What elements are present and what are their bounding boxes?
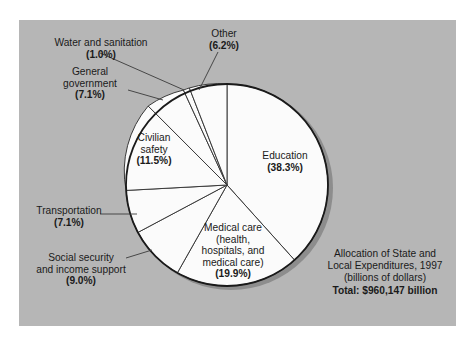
slice-label-general-government-line2: government xyxy=(63,78,117,89)
slice-label-civilian-safety-line2: safety xyxy=(140,144,167,155)
slice-label-other-pct: (6.2%) xyxy=(209,40,239,51)
pie-chart-figure: Water and sanitation (1.0%) Other (6.2%)… xyxy=(0,0,469,341)
slice-label-transportation: Transportation (7.1%) xyxy=(14,205,124,228)
slice-label-medical-care-line3: hospitals, and xyxy=(202,245,265,256)
slice-label-medical-care-line4: medical care) xyxy=(202,257,263,268)
slice-label-water-sanitation-name: Water and sanitation xyxy=(54,37,147,48)
slice-label-other: Other (6.2%) xyxy=(192,28,256,51)
slice-label-general-government-line1: General xyxy=(72,66,108,77)
slice-label-medical-care: Medical care (health, hospitals, and med… xyxy=(178,222,288,280)
chart-caption: Allocation of State and Local Expenditur… xyxy=(318,248,452,297)
slice-label-education: Education (38.3%) xyxy=(243,150,327,173)
slice-label-transportation-name: Transportation xyxy=(36,205,101,216)
caption-line-1: Allocation of State and xyxy=(334,248,436,259)
caption-line-2: Local Expenditures, 1997 xyxy=(328,260,443,271)
slice-label-general-government: General government (7.1%) xyxy=(42,66,138,101)
slice-label-civilian-safety: Civilian safety (11.5%) xyxy=(118,132,190,167)
slice-label-general-government-pct: (7.1%) xyxy=(75,89,105,100)
caption-total: Total: $960,147 billion xyxy=(332,285,437,296)
slice-label-civilian-safety-pct: (11.5%) xyxy=(136,155,171,166)
slice-label-water-sanitation: Water and sanitation (1.0%) xyxy=(36,37,166,60)
slice-label-medical-care-pct: (19.9%) xyxy=(215,268,251,279)
slice-label-social-security-line2: and income support xyxy=(36,264,125,275)
slice-label-medical-care-line1: Medical care xyxy=(204,222,262,233)
slice-label-education-pct: (38.3%) xyxy=(267,162,303,173)
slice-label-transportation-pct: (7.1%) xyxy=(54,217,84,228)
slice-label-civilian-safety-line1: Civilian xyxy=(138,132,171,143)
slice-label-medical-care-line2: (health, xyxy=(216,234,250,245)
slice-label-social-security: Social security and income support (9.0%… xyxy=(12,252,150,287)
slice-label-social-security-pct: (9.0%) xyxy=(66,275,96,286)
slice-label-water-sanitation-pct: (1.0%) xyxy=(86,49,116,60)
slice-label-education-name: Education xyxy=(262,150,307,161)
slice-label-other-name: Other xyxy=(211,28,236,39)
caption-line-3: (billions of dollars) xyxy=(344,272,426,283)
slice-label-social-security-line1: Social security xyxy=(48,252,114,263)
